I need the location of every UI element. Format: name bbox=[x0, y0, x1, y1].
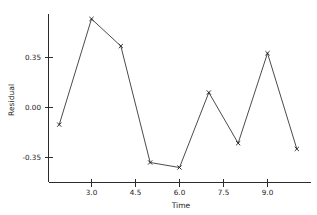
residual-series-line bbox=[59, 19, 297, 168]
x-axis-title: Time bbox=[171, 201, 191, 210]
data-point-marker bbox=[236, 141, 240, 145]
x-tick-label-4.5: 4.5 bbox=[130, 188, 141, 197]
chart-canvas: 0.35 0.00 -0.35 3.0 4.5 6.0 7.5 9.0 Time… bbox=[0, 0, 317, 215]
data-point-marker bbox=[207, 90, 211, 94]
residual-series-markers bbox=[57, 17, 299, 170]
data-point-marker bbox=[295, 147, 299, 151]
y-tick-label-0.00: 0.00 bbox=[25, 103, 41, 112]
data-point-marker bbox=[57, 123, 61, 127]
x-tick-label-7.5: 7.5 bbox=[218, 188, 229, 197]
data-point-marker bbox=[265, 51, 269, 55]
residual-time-line-chart: 0.35 0.00 -0.35 3.0 4.5 6.0 7.5 9.0 Time… bbox=[0, 0, 317, 215]
y-tick-label--0.35: -0.35 bbox=[22, 153, 41, 162]
data-point-marker bbox=[89, 17, 93, 21]
y-tick-label-0.35: 0.35 bbox=[25, 53, 41, 62]
x-tick-label-3.0: 3.0 bbox=[86, 188, 98, 197]
y-axis-title: Residual bbox=[7, 84, 16, 116]
x-tick-label-9.0: 9.0 bbox=[262, 188, 274, 197]
x-tick-label-6.0: 6.0 bbox=[174, 188, 186, 197]
